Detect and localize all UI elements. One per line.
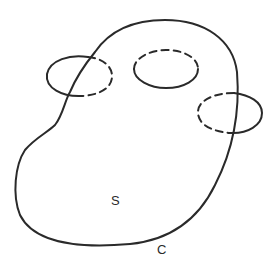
right-loop-dashed <box>198 93 234 133</box>
middle-loop-dashed <box>134 50 198 69</box>
boundary-label: C <box>157 242 166 257</box>
surface-boundary-curve <box>15 20 237 245</box>
middle-loop-solid <box>134 69 198 88</box>
surface-label: S <box>111 193 120 208</box>
diagram-canvas: S C <box>0 0 275 265</box>
surface-diagram: S C <box>0 0 275 265</box>
left-loop-solid <box>47 56 88 96</box>
